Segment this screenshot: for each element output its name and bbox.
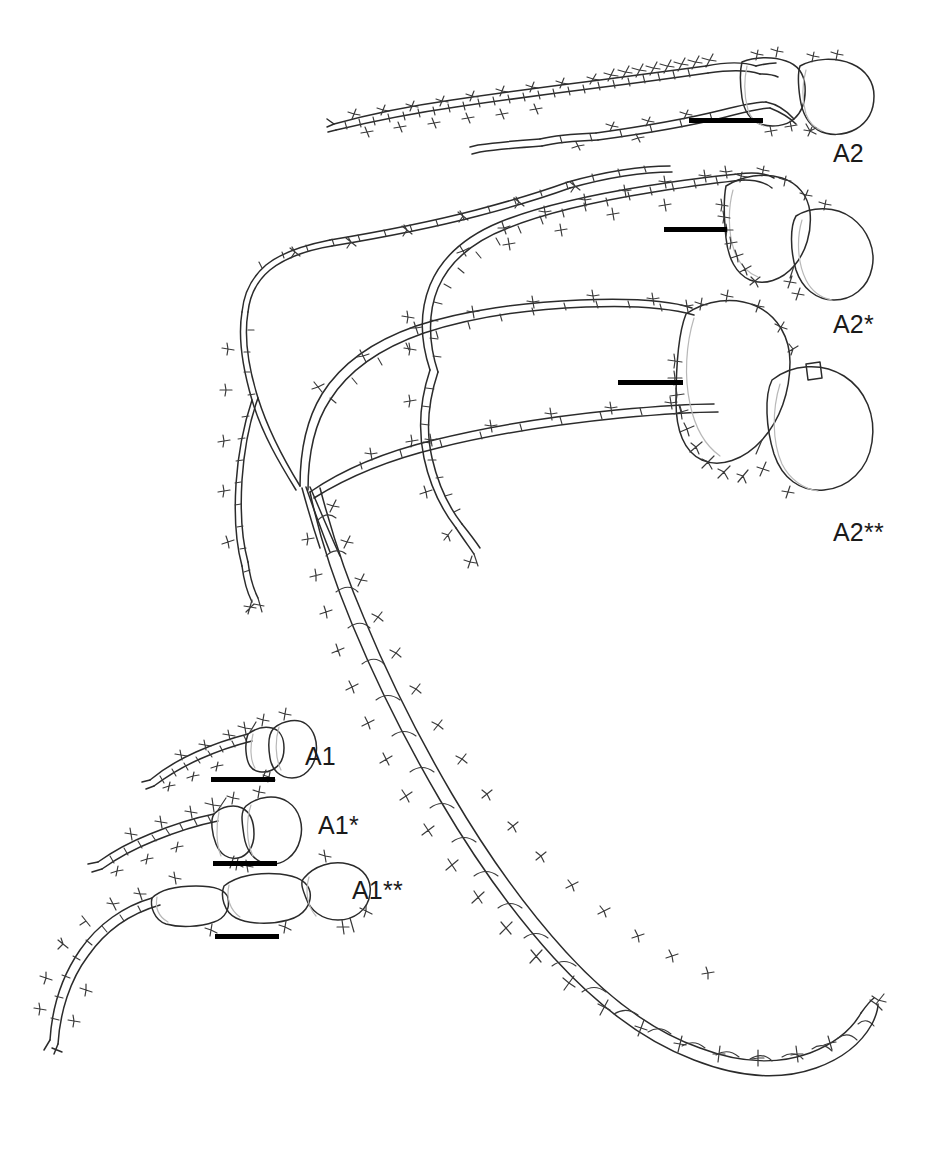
scale-bar-a2 <box>689 118 763 123</box>
label-a2: A2 <box>833 139 864 168</box>
large-flagellum <box>302 487 886 1076</box>
scale-bar-a2-2star <box>618 380 683 385</box>
label-a1-double-star: A1** <box>352 876 403 905</box>
specimen-a1-2star <box>34 850 372 1054</box>
specimen-a2-2star <box>218 166 873 614</box>
antennae-drawing: .ln{fill:none;stroke:#2b2b2b;stroke-widt… <box>0 0 930 1151</box>
label-a1-star: A1* <box>318 811 359 840</box>
scale-bar-a2-star <box>664 227 727 232</box>
scale-bar-a1 <box>211 777 275 782</box>
figure-plate: .ln{fill:none;stroke:#2b2b2b;stroke-widt… <box>0 0 930 1151</box>
scale-bar-a1-2star <box>215 934 279 939</box>
scale-bar-a1-star <box>213 861 277 866</box>
label-a1: A1 <box>305 742 336 771</box>
label-a2-double-star: A2** <box>833 518 884 547</box>
specimen-a2 <box>327 47 874 154</box>
label-a2-star: A2* <box>833 310 874 339</box>
